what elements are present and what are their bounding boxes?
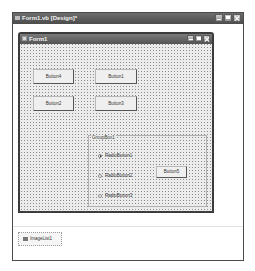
radiobutton3-label: RadioButton3 bbox=[105, 193, 132, 198]
radiobutton3[interactable]: RadioButton3 bbox=[98, 193, 132, 198]
designer-window-controls bbox=[215, 14, 241, 22]
form1-window-controls bbox=[187, 35, 210, 42]
radiobutton1-label: RadioButton1 bbox=[105, 153, 132, 158]
form1-design-surface[interactable]: Form1 Button4 Button1 Button2 Button3 Gr… bbox=[18, 32, 214, 213]
maximize-icon[interactable] bbox=[195, 35, 202, 42]
component-tray-divider bbox=[13, 226, 243, 227]
button5[interactable]: Button5 bbox=[156, 166, 187, 178]
minimize-icon[interactable] bbox=[215, 14, 223, 22]
groupbox1[interactable]: GroupBox1 RadioButton1 RadioButton2 Radi… bbox=[88, 135, 207, 207]
imagelist1-component[interactable]: ImageList1 bbox=[18, 232, 62, 246]
close-icon[interactable] bbox=[203, 35, 210, 42]
button1[interactable]: Button1 bbox=[95, 69, 137, 84]
button2[interactable]: Button2 bbox=[33, 96, 74, 111]
form-icon bbox=[22, 36, 27, 41]
radiobutton2-label: RadioButton2 bbox=[105, 173, 132, 178]
radiobutton1[interactable]: RadioButton1 bbox=[98, 153, 132, 158]
designer-title-bar[interactable]: Form1.vb [Design]* bbox=[13, 13, 243, 24]
imagelist-icon bbox=[23, 237, 28, 241]
imagelist1-label: ImageList1 bbox=[30, 233, 52, 245]
groupbox1-label: GroupBox1 bbox=[91, 135, 116, 140]
document-icon bbox=[15, 16, 20, 20]
minimize-icon[interactable] bbox=[187, 35, 194, 42]
close-icon[interactable] bbox=[233, 14, 241, 22]
form1-title-bar[interactable]: Form1 bbox=[20, 34, 212, 44]
form1-title: Form1 bbox=[29, 34, 47, 44]
button4[interactable]: Button4 bbox=[33, 69, 74, 84]
radio-unchecked-icon bbox=[98, 174, 102, 178]
maximize-icon[interactable] bbox=[224, 14, 232, 22]
designer-title: Form1.vb [Design]* bbox=[22, 13, 77, 24]
radio-checked-icon bbox=[98, 154, 102, 158]
button3[interactable]: Button3 bbox=[95, 96, 137, 111]
radio-unchecked-icon bbox=[98, 194, 102, 198]
radiobutton2[interactable]: RadioButton2 bbox=[98, 173, 132, 178]
